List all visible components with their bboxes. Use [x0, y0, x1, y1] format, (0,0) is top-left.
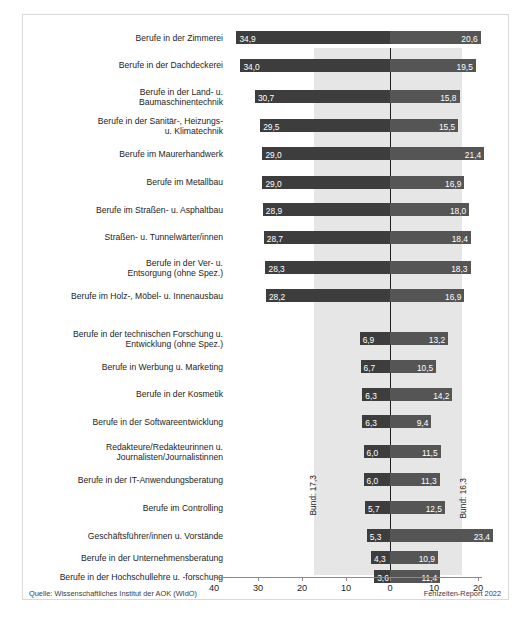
- table-row: Berufe in der Kosmetik6,314,2: [23, 384, 488, 402]
- table-row: Berufe in der Zimmerei34,920,6: [23, 27, 488, 45]
- bar-tage: 18,0: [390, 203, 469, 216]
- row-label-line: Berufe in der Zimmerei: [9, 33, 223, 43]
- report-note: Fehlzeiten-Report 2022: [424, 589, 501, 598]
- value-tage: 11,5: [422, 448, 438, 459]
- table-row: Berufe in der Land- u.Baumaschinentechni…: [23, 86, 488, 104]
- row-label-line: Berufe im Holz-, Möbel- u. Innenausbau: [9, 291, 223, 301]
- bar-tage: 14,2: [390, 388, 452, 401]
- value-tage: 11,3: [421, 476, 437, 487]
- row-label: Berufe im Straßen- u. Asphaltbau: [9, 205, 223, 215]
- value-faelle: 28,9: [266, 206, 282, 217]
- row-label-line: Geschäftsführer/innen u. Vorstände: [9, 531, 223, 541]
- value-faelle: 6,3: [365, 418, 377, 429]
- axis-tick-label: 30: [253, 583, 263, 593]
- row-label: Berufe in der Zimmerei: [9, 33, 223, 43]
- row-label: Berufe im Holz-, Möbel- u. Innenausbau: [9, 291, 223, 301]
- row-label: Berufe in der Kosmetik: [9, 389, 223, 399]
- value-tage: 15,8: [440, 93, 456, 104]
- row-label-line: Berufe im Maurerhandwerk: [9, 149, 223, 159]
- row-label-line: Berufe im Controlling: [9, 503, 223, 513]
- axis-tick: [346, 577, 347, 581]
- value-tage: 10,5: [417, 363, 433, 374]
- value-faelle: 34,9: [239, 34, 255, 45]
- value-tage: 16,9: [445, 179, 461, 190]
- bar-tage: 23,4: [390, 529, 493, 542]
- row-label: Berufe in Werbung u. Marketing: [9, 362, 223, 372]
- axis-tick-label: 10: [341, 583, 351, 593]
- table-row: Straßen- u. Tunnelwärter/innen28,718,4: [23, 227, 488, 245]
- bar-tage: 18,4: [390, 231, 471, 244]
- value-tage: 21,4: [465, 150, 481, 161]
- bar-faelle: 29,0: [262, 147, 390, 160]
- bund-label-tage: Bund: 16,3: [458, 478, 468, 519]
- row-label: Straßen- u. Tunnelwärter/innen: [9, 232, 223, 242]
- table-row: Berufe im Holz-, Möbel- u. Innenausbau28…: [23, 285, 488, 303]
- row-label-line: Berufe in der Kosmetik: [9, 389, 223, 399]
- chart-figure: Fälle je 100 AOK-Mitglieder Tage je Fall…: [22, 14, 509, 600]
- bund-label-faelle: Bund: 17,3: [308, 475, 318, 516]
- table-row: Berufe in der Unternehmensberatung4,310,…: [23, 547, 488, 565]
- table-row: Berufe im Maurerhandwerk29,021,4: [23, 143, 488, 161]
- value-faelle: 6,0: [367, 448, 379, 459]
- bar-tage: 11,5: [390, 445, 441, 458]
- row-label-line: Berufe in der Ver- u.: [9, 258, 223, 268]
- bar-tage: 16,9: [390, 289, 464, 302]
- bar-tage: 21,4: [390, 147, 484, 160]
- row-label: Berufe in der Land- u.Baumaschinentechni…: [9, 87, 223, 108]
- row-label: Berufe in der Hochschullehre u. -forschu…: [9, 572, 223, 582]
- value-faelle: 6,7: [364, 363, 376, 374]
- value-faelle: 29,0: [265, 150, 281, 161]
- table-row: Berufe in der Softwareentwicklung6,39,4: [23, 411, 488, 429]
- value-tage: 18,3: [451, 264, 467, 275]
- row-label-line: Berufe in Werbung u. Marketing: [9, 362, 223, 372]
- bar-faelle: 4,3: [371, 551, 390, 564]
- bar-faelle: 6,0: [364, 445, 390, 458]
- row-label: Berufe im Maurerhandwerk: [9, 149, 223, 159]
- table-row: Redakteure/Redakteurinnen u.Journalisten…: [23, 441, 488, 459]
- bar-faelle: 34,9: [236, 31, 390, 44]
- table-row: Berufe im Straßen- u. Asphaltbau28,918,0: [23, 199, 488, 217]
- bar-faelle: 28,7: [264, 231, 390, 244]
- bar-tage: 18,3: [390, 261, 471, 274]
- row-label-line: Berufe in der Sanitär-, Heizungs-: [9, 116, 223, 126]
- value-faelle: 6,0: [367, 476, 379, 487]
- value-faelle: 29,0: [265, 179, 281, 190]
- axis-tick: [390, 577, 391, 581]
- bar-faelle: 6,9: [360, 332, 390, 345]
- table-row: Berufe in der Dachdeckerei34,019,5: [23, 55, 488, 73]
- value-tage: 20,6: [461, 34, 477, 45]
- row-label: Berufe in der Softwareentwicklung: [9, 417, 223, 427]
- bar-tage: 20,6: [390, 31, 481, 44]
- value-faelle: 4,3: [374, 554, 386, 565]
- value-tage: 10,9: [419, 554, 435, 565]
- value-tage: 23,4: [474, 532, 490, 543]
- row-label: Berufe im Controlling: [9, 503, 223, 513]
- row-label: Berufe in der technischen Forschung u.En…: [9, 329, 223, 350]
- bar-faelle: 6,3: [362, 415, 390, 428]
- bar-faelle: 29,5: [260, 119, 390, 132]
- value-tage: 14,2: [433, 391, 449, 402]
- bar-tage: 10,9: [390, 551, 438, 564]
- axis-tick-label: 20: [297, 583, 307, 593]
- bar-faelle: 28,2: [266, 289, 390, 302]
- row-label-line: Berufe im Straßen- u. Asphaltbau: [9, 205, 223, 215]
- table-row: Berufe im Metallbau29,016,9: [23, 172, 488, 190]
- row-label-line: Entwicklung (ohne Spez.): [9, 339, 223, 349]
- value-faelle: 5,7: [368, 504, 380, 515]
- value-faelle: 5,3: [370, 532, 382, 543]
- row-label-line: Baumaschinentechnik: [9, 97, 223, 107]
- bar-faelle: 5,7: [365, 501, 390, 514]
- value-tage: 12,5: [426, 504, 442, 515]
- row-label-line: Journalisten/Journalistinnen: [9, 452, 223, 462]
- table-row: Berufe in der Ver- u.Entsorgung (ohne Sp…: [23, 257, 488, 275]
- bar-faelle: 6,7: [361, 360, 390, 373]
- bar-faelle: 28,9: [263, 203, 390, 216]
- value-faelle: 28,2: [269, 292, 285, 303]
- row-label-line: Berufe in der Land- u.: [9, 87, 223, 97]
- axis-tick: [258, 577, 259, 581]
- bar-tage: 13,2: [390, 332, 448, 345]
- axis-tick: [302, 577, 303, 581]
- bar-tage: 19,5: [390, 59, 476, 72]
- row-label-line: Entsorgung (ohne Spez.): [9, 268, 223, 278]
- source-note: Quelle: Wissenschaftliches Institut der …: [29, 589, 197, 598]
